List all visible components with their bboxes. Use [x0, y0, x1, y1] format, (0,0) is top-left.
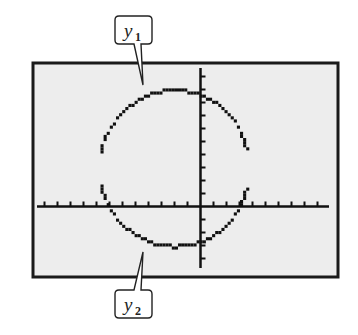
label-y1-var: y [122, 20, 133, 41]
label-y2-var: y [122, 294, 133, 315]
calculator-graph-figure: y 1 y 2 [0, 0, 358, 335]
label-y1-sub: 1 [135, 30, 141, 44]
label-y2-sub: 2 [135, 304, 141, 318]
